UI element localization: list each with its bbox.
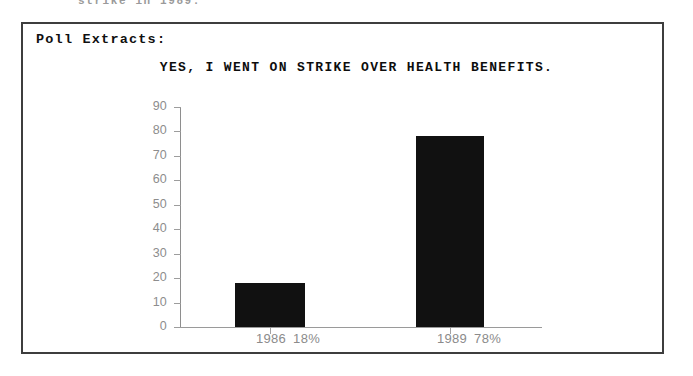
poll-extract-box: Poll Extracts: YES, I WENT ON STRIKE OVE… bbox=[21, 22, 664, 354]
y-tick-label-10: 10 bbox=[139, 296, 167, 308]
y-tick-label-30: 30 bbox=[139, 247, 167, 259]
x-label-year-1986: 1986 bbox=[256, 331, 286, 346]
y-tick-60 bbox=[174, 180, 181, 181]
y-tick-80 bbox=[174, 131, 181, 132]
y-tick-label-90: 90 bbox=[139, 100, 167, 112]
y-tick-label-60: 60 bbox=[139, 173, 167, 185]
y-tick-label-70: 70 bbox=[139, 149, 167, 161]
x-label-pct-1989: 78% bbox=[474, 331, 501, 346]
bar-1989 bbox=[416, 136, 484, 327]
y-tick-label-50: 50 bbox=[139, 198, 167, 210]
x-tick-label-1986: 198618% bbox=[256, 331, 320, 346]
bar-1986 bbox=[235, 283, 305, 327]
clipped-body-text: strike in 1989. bbox=[78, 0, 378, 7]
y-tick-0 bbox=[174, 327, 181, 328]
x-label-year-1989: 1989 bbox=[437, 331, 467, 346]
x-axis-line bbox=[180, 327, 542, 328]
y-tick-10 bbox=[174, 303, 181, 304]
bar-chart: 90 80 70 60 50 40 30 20 10 0 198618% 198… bbox=[23, 24, 666, 356]
x-label-pct-1986: 18% bbox=[293, 331, 320, 346]
y-tick-label-20: 20 bbox=[139, 271, 167, 283]
y-tick-70 bbox=[174, 156, 181, 157]
y-tick-50 bbox=[174, 205, 181, 206]
y-tick-40 bbox=[174, 229, 181, 230]
x-tick-label-1989: 198978% bbox=[437, 331, 501, 346]
y-tick-label-80: 80 bbox=[139, 124, 167, 136]
y-tick-label-40: 40 bbox=[139, 222, 167, 234]
y-tick-label-0: 0 bbox=[139, 320, 167, 332]
y-tick-20 bbox=[174, 278, 181, 279]
y-tick-90 bbox=[174, 107, 181, 108]
y-axis-line bbox=[180, 107, 181, 328]
y-tick-30 bbox=[174, 254, 181, 255]
